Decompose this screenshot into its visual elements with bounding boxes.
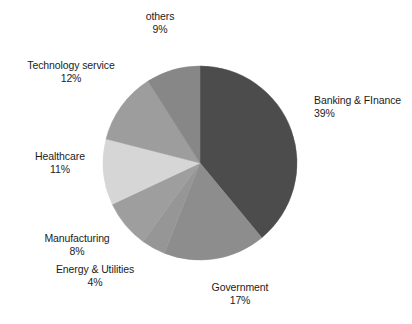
pie-label-healthcare: Healthcare 11% [14,150,106,176]
pie-label-others: others 9% [108,10,212,36]
pie-label-government-name: Government [186,281,294,294]
pie-label-banking-finance-name: Banking & FInance [314,94,412,107]
pie-label-manufacturing: Manufacturing 8% [18,232,136,258]
pie-label-energy-utilities: Energy & Utilities 4% [38,263,152,289]
pie-chart: others 9% Technology service 12% Banking… [0,0,412,324]
pie-label-banking-finance: Banking & FInance 39% [314,94,412,120]
pie-label-energy-utilities-percent: 4% [38,276,152,289]
pie-label-energy-utilities-name: Energy & Utilities [38,263,152,276]
pie-label-government-percent: 17% [186,294,294,307]
pie-label-healthcare-percent: 11% [14,163,106,176]
pie-label-technology-service: Technology service 12% [6,59,136,85]
pie-label-manufacturing-percent: 8% [18,245,136,258]
pie-label-others-name: others [108,10,212,23]
pie-label-government: Government 17% [186,281,294,307]
pie-label-others-percent: 9% [108,23,212,36]
pie-label-banking-finance-percent: 39% [314,107,412,120]
pie-label-manufacturing-name: Manufacturing [18,232,136,245]
pie-label-healthcare-name: Healthcare [14,150,106,163]
pie-label-technology-service-percent: 12% [6,72,136,85]
pie-label-technology-service-name: Technology service [6,59,136,72]
pie-slice-group [103,66,297,260]
